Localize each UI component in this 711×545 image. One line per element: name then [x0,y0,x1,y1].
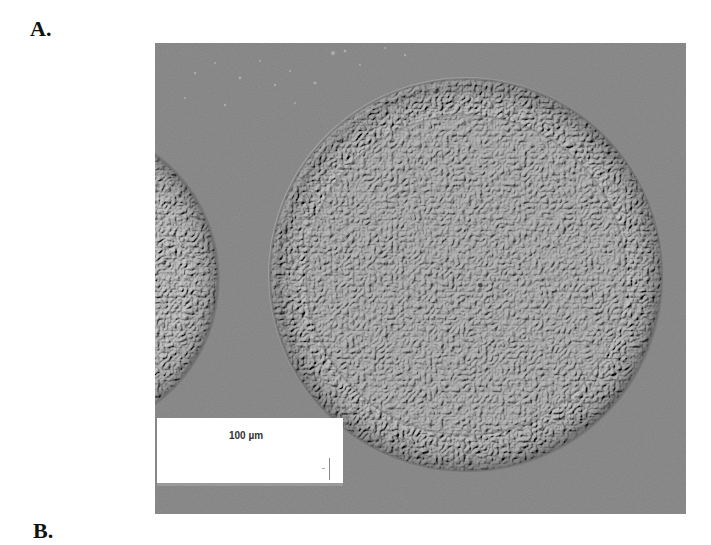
scale-bar-line [329,458,330,480]
scale-bar-box: 100 µm [157,418,343,486]
panel-label-b: B. [33,518,53,544]
panel-label-a: A. [30,16,51,42]
scale-bar-label: 100 µm [229,430,263,441]
micrograph-image: 100 µm [155,43,686,514]
scale-bar-tick [322,468,325,469]
